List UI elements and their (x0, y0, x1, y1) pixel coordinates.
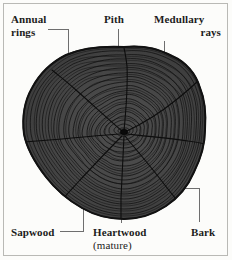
label-heartwood-line2: (mature) (93, 239, 146, 252)
label-sapwood-line1: Sapwood (11, 226, 55, 238)
tree-cross-section-figure: Annual rings Pith Medullary rays Sapwood… (0, 0, 232, 260)
label-heartwood-line1: Heartwood (93, 226, 146, 238)
label-heartwood: Heartwood (mature) (93, 226, 146, 251)
label-sapwood: Sapwood (11, 226, 55, 239)
wood-disc (23, 47, 205, 219)
label-annual-rings: Annual rings (11, 13, 46, 38)
label-medullary-rays-line1: Medullary (154, 13, 204, 25)
pith-center (120, 129, 127, 135)
label-medullary-rays: Medullary rays (154, 13, 221, 38)
label-annual-rings-line2: rings (11, 26, 35, 38)
label-medullary-rays-line2: rays (154, 26, 221, 39)
label-annual-rings-line1: Annual (11, 13, 46, 25)
label-bark: Bark (191, 226, 215, 239)
label-pith: Pith (104, 13, 124, 26)
label-bark-line1: Bark (191, 226, 215, 238)
tree-rings-illustration (0, 0, 232, 260)
label-pith-line1: Pith (104, 13, 124, 25)
